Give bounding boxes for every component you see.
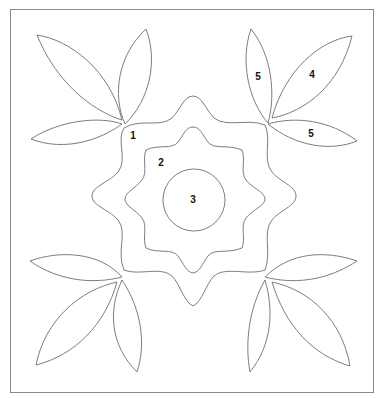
region-label-3: 3	[190, 194, 196, 205]
region-label-5-top: 5	[255, 71, 261, 82]
region-label-4: 4	[309, 69, 315, 80]
region-label-2: 2	[158, 157, 164, 168]
region-label-1: 1	[130, 130, 136, 141]
quilt-pattern-diagram: 1 2 3 5 4 5	[0, 0, 380, 398]
region-label-5-side: 5	[308, 128, 314, 139]
